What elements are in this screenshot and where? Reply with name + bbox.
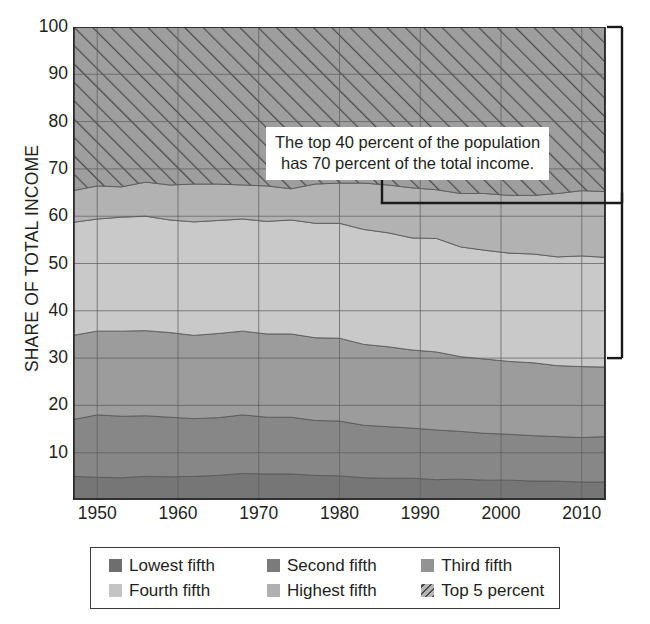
legend-swatch-icon [267, 584, 280, 597]
legend-item[interactable]: Second fifth [267, 556, 421, 576]
legend-label: Second fifth [287, 556, 377, 576]
x-tick-label: 1950 [57, 505, 137, 523]
x-tick-label: 1970 [219, 505, 299, 523]
legend-swatch-icon [109, 559, 122, 572]
x-tick-label: 2000 [461, 505, 541, 523]
legend-item[interactable]: Highest fifth [267, 581, 421, 601]
legend-item[interactable]: Third fifth [421, 556, 559, 576]
stacked-area-plot [73, 27, 606, 500]
legend-item[interactable]: Fourth fifth [109, 581, 267, 601]
x-tick-label: 1960 [138, 505, 218, 523]
plot-area [73, 27, 606, 500]
legend-swatch-icon [109, 584, 122, 597]
annotation-line-1: The top 40 percent of the population [275, 132, 540, 153]
legend-label: Fourth fifth [129, 581, 210, 601]
x-tick-label: 2010 [542, 505, 622, 523]
income-share-chart-figure: SHARE OF TOTAL INCOME 100908070605040302… [0, 0, 650, 624]
x-tick-label: 1990 [380, 505, 460, 523]
legend-row-2: Fourth fifthHighest fifthTop 5 percent [109, 578, 559, 603]
annotation-callout: The top 40 percent of the population has… [266, 127, 549, 180]
legend-item[interactable]: Lowest fifth [109, 556, 267, 576]
annotation-line-2: has 70 percent of the total income. [275, 153, 540, 174]
legend-item[interactable]: Top 5 percent [421, 581, 559, 601]
x-tick-label: 1980 [300, 505, 380, 523]
legend-swatch-icon [421, 584, 434, 597]
legend-label: Third fifth [441, 556, 512, 576]
chart-legend: Lowest fifthSecond fifthThird fifth Four… [90, 547, 560, 609]
legend-label: Lowest fifth [129, 556, 215, 576]
legend-label: Top 5 percent [441, 581, 544, 601]
legend-swatch-icon [421, 559, 434, 572]
legend-row-1: Lowest fifthSecond fifthThird fifth [109, 553, 559, 578]
legend-swatch-icon [267, 559, 280, 572]
legend-label: Highest fifth [287, 581, 377, 601]
